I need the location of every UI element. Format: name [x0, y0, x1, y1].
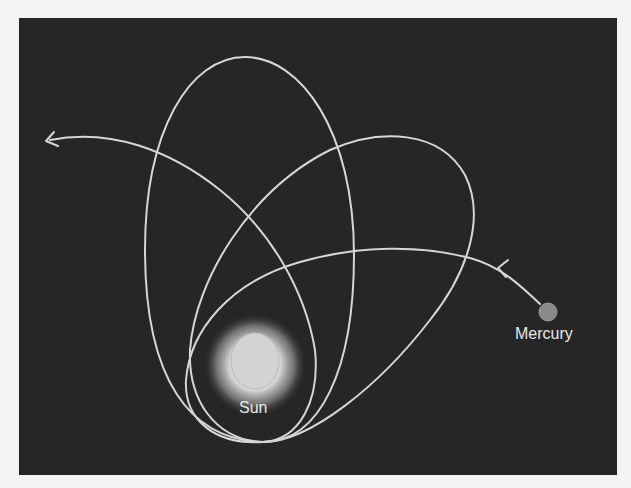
mercury-planet [539, 303, 557, 321]
orbit-diagram [0, 0, 631, 488]
sun-core [231, 333, 279, 389]
sun-label: Sun [239, 400, 267, 416]
mercury-label: Mercury [515, 326, 573, 342]
